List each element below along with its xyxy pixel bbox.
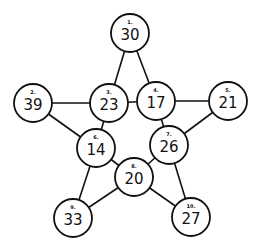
node-index-label: 3. (106, 89, 111, 95)
node-value: 39 (23, 96, 42, 114)
node-index-label: 9. (70, 204, 75, 210)
node-index-label: 2. (30, 89, 35, 95)
node-3: 3.23 (90, 84, 128, 122)
node-10: 10.27 (172, 198, 210, 236)
node-index-label: 6. (93, 134, 98, 140)
node-value: 17 (146, 94, 165, 112)
node-value: 33 (63, 211, 82, 229)
node-index-label: 8. (131, 163, 136, 169)
node-index-label: 1. (127, 19, 132, 25)
node-value: 14 (86, 141, 105, 159)
node-index-label: 5. (225, 87, 230, 93)
node-5: 5.21 (209, 82, 247, 120)
node-index-label: 10. (187, 203, 196, 209)
node-6: 6.14 (77, 129, 115, 167)
node-value: 30 (120, 26, 139, 44)
node-1: 1.30 (111, 14, 149, 52)
node-value: 26 (159, 138, 178, 156)
node-index-label: 4. (153, 87, 158, 93)
node-value: 23 (99, 96, 118, 114)
node-9: 9.33 (54, 199, 92, 237)
node-index-label: 7. (166, 131, 171, 137)
node-2: 2.39 (14, 84, 52, 122)
node-4: 4.17 (137, 82, 175, 120)
node-value: 21 (218, 94, 237, 112)
node-7: 7.26 (150, 126, 188, 164)
pentagram-diagram: 1.302.393.234.175.216.147.268.209.3310.2… (0, 0, 257, 247)
node-value: 27 (181, 210, 200, 228)
node-value: 20 (124, 170, 143, 188)
node-8: 8.20 (115, 158, 153, 196)
nodes-group: 1.302.393.234.175.216.147.268.209.3310.2… (14, 14, 247, 237)
